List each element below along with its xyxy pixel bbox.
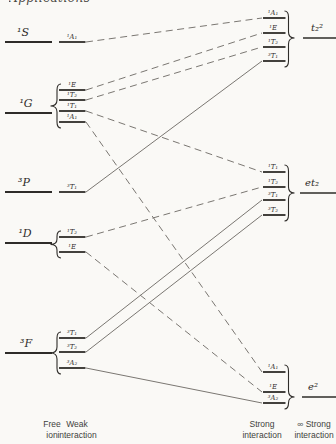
strong-field-term-label: ¹T₂ — [268, 178, 278, 186]
strong-field-term-label: ¹T₁ — [268, 163, 278, 171]
axis-label-line: Weak — [57, 419, 96, 430]
strong-field-term-label: ¹T₂ — [268, 38, 278, 46]
strong-field-term-label: ³T₁ — [268, 52, 278, 60]
solid-correlation-line — [86, 368, 262, 403]
weak-field-term-label: ³A₂ — [67, 359, 78, 367]
free-ion-term-label: ¹G — [19, 97, 32, 110]
weak-field-term-label: ¹E — [68, 243, 76, 251]
configuration-label: t₂² — [311, 22, 323, 33]
strong-field-term-label: ¹A₁ — [268, 9, 278, 17]
weak-field-term-label: ¹E — [68, 81, 76, 89]
dashed-correlation-line — [86, 111, 262, 172]
free-ion-term-label: ¹D — [18, 227, 31, 240]
correlation-diagram: ¹S¹G³P¹D³F¹A₁¹E¹T₂¹T₁¹A₁³T₁¹T₂¹E³T₁³T₂³A… — [0, 0, 336, 444]
strong-field-term-label: ³T₂ — [268, 206, 278, 214]
weak-field-term-label: ³T₁ — [67, 329, 77, 337]
left-brace — [51, 231, 62, 258]
dashed-correlation-line — [86, 18, 262, 42]
free-ion-term-label: ³F — [20, 337, 32, 350]
axis-label-line: interaction — [57, 430, 96, 441]
axis-label-line: Strong — [242, 419, 281, 430]
right-brace — [285, 11, 295, 67]
free-ion-term-label: ³P — [18, 176, 30, 189]
free-ion-term-label: ¹S — [17, 26, 29, 39]
weak-field-term-label: ¹T₁ — [67, 102, 77, 110]
solid-correlation-line — [86, 200, 262, 338]
dashed-correlation-line — [86, 33, 262, 90]
axis-label-strong-interaction: Strong interaction — [242, 419, 281, 441]
strong-field-term-label: ³T₁ — [268, 191, 278, 199]
axis-label-line: interaction — [294, 430, 333, 441]
solid-correlation-line — [86, 215, 262, 352]
weak-field-term-label: ¹A₁ — [67, 113, 77, 121]
dashed-correlation-line — [86, 187, 262, 237]
strong-field-term-label: ³A₂ — [268, 394, 279, 402]
axis-label-line: interaction — [242, 430, 281, 441]
solid-correlation-line — [86, 61, 262, 192]
axis-label-line: ∞ Strong — [294, 419, 333, 430]
dashed-correlation-line — [86, 122, 262, 372]
weak-field-term-label: ¹T₂ — [67, 228, 77, 236]
configuration-label: e² — [308, 381, 318, 392]
dashed-correlation-line — [86, 47, 262, 100]
axis-label-weak-interaction: Weak interaction — [57, 419, 96, 441]
figure-page: Applications ¹S¹G³P¹D³F¹A₁¹E¹T₂¹T₁¹A₁³T₁… — [0, 0, 336, 444]
configuration-label: et₂ — [305, 177, 319, 188]
right-brace — [285, 365, 295, 409]
weak-field-term-label: ¹A₁ — [67, 33, 77, 41]
strong-field-term-label: ¹A₁ — [268, 363, 278, 371]
axis-label-infinitely-strong-interaction: ∞ Strong interaction — [294, 419, 333, 441]
strong-field-term-label: ¹E — [269, 383, 277, 391]
weak-field-term-label: ¹T₂ — [67, 91, 77, 99]
dashed-correlation-line — [86, 252, 262, 392]
strong-field-term-label: ¹E — [269, 24, 277, 32]
right-brace — [285, 165, 295, 221]
weak-field-term-label: ³T₁ — [67, 183, 77, 191]
weak-field-term-label: ³T₂ — [67, 343, 77, 351]
